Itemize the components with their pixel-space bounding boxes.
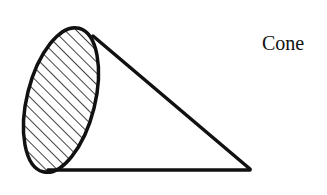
cone-label: Cone [262, 32, 304, 55]
cone-drawing [0, 0, 327, 195]
cone-diagram: Cone [0, 0, 327, 195]
cone-top-edge [93, 36, 250, 169]
